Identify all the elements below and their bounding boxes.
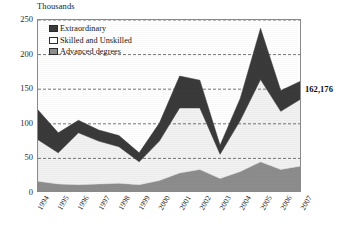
stacked-area-chart: Thousands 050100150200250 Extraordinary … xyxy=(0,0,338,246)
x-axis-tick-1999: 1999 xyxy=(137,194,152,212)
x-axis-tick-1998: 1998 xyxy=(116,194,131,212)
y-axis-title: Thousands xyxy=(37,1,75,11)
x-axis-tick-2007: 2007 xyxy=(298,194,313,212)
x-axis-tick-2004: 2004 xyxy=(238,194,253,212)
legend-swatch-skilled-and-unskilled xyxy=(49,37,58,44)
y-axis-tick-50: 50 xyxy=(9,152,33,162)
x-axis-tick-2000: 2000 xyxy=(157,194,172,212)
x-axis-tick-labels: 1994199519961997199819992000200120022003… xyxy=(37,192,301,246)
x-axis-tick-2003: 2003 xyxy=(217,194,232,212)
x-axis-tick-1996: 1996 xyxy=(76,194,91,212)
legend-item: Extraordinary xyxy=(49,23,132,35)
y-axis-tick-200: 200 xyxy=(9,49,33,59)
legend-swatch-advanced-degrees xyxy=(49,48,58,55)
y-axis-tick-100: 100 xyxy=(9,118,33,128)
legend-label-advanced-degrees: Advanced degrees xyxy=(60,47,121,56)
x-axis-tick-2001: 2001 xyxy=(177,194,192,212)
legend-item: Advanced degrees xyxy=(49,46,132,58)
x-axis-tick-2002: 2002 xyxy=(197,194,212,212)
x-axis-tick-1997: 1997 xyxy=(96,194,111,212)
y-axis-tick-labels: 050100150200250 xyxy=(4,0,33,246)
x-axis-tick-2005: 2005 xyxy=(258,194,273,212)
x-axis-tick-1994: 1994 xyxy=(35,194,50,212)
y-axis-tick-0: 0 xyxy=(9,187,33,197)
data-label-2007-total: 162,176 xyxy=(305,84,333,94)
y-axis-tick-250: 250 xyxy=(9,14,33,24)
chart-legend: Extraordinary Skilled and Unskilled Adva… xyxy=(45,20,136,60)
y-axis-tick-150: 150 xyxy=(9,83,33,93)
legend-label-skilled-and-unskilled: Skilled and Unskilled xyxy=(60,36,132,45)
legend-swatch-extraordinary xyxy=(49,25,58,32)
x-axis-tick-1995: 1995 xyxy=(56,194,71,212)
legend-label-extraordinary: Extraordinary xyxy=(60,24,106,33)
legend-item: Skilled and Unskilled xyxy=(49,35,132,47)
x-axis-tick-2006: 2006 xyxy=(278,194,293,212)
